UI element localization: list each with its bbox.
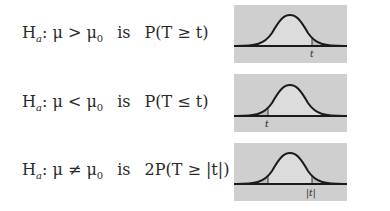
bell-curve-left-tail-icon: t	[234, 74, 347, 132]
connector-text: is	[117, 92, 130, 111]
formula-right-tail: Ha: μ > μ0isP(T ≥ t)	[22, 23, 208, 49]
svg-text:t: t	[265, 119, 269, 129]
hypothesis-symbol: H	[22, 160, 36, 179]
right-tail-diagram: t	[234, 5, 347, 63]
svg-text:t: t	[310, 49, 314, 59]
hypothesis-relation: : μ > μ	[42, 23, 97, 42]
connector-text: is	[117, 160, 130, 179]
hypothesis-relation: : μ < μ	[42, 92, 97, 111]
p-value-expression: P(T ≥ t)	[144, 23, 208, 42]
svg-text:|t|: |t|	[306, 188, 316, 199]
mu-subscript: 0	[97, 102, 103, 113]
hypothesis-symbol: H	[22, 23, 36, 42]
formula-left-tail: Ha: μ < μ0isP(T ≤ t)	[22, 92, 208, 118]
connector-text: is	[117, 23, 130, 42]
mu-subscript: 0	[97, 170, 103, 181]
hypothesis-relation: : μ ≠ μ	[42, 160, 97, 179]
hypothesis-symbol: H	[22, 92, 36, 111]
two-tail-diagram: |t|	[234, 143, 347, 201]
bell-curve-right-tail-icon: t	[234, 5, 347, 63]
formula-two-tail: Ha: μ ≠ μ0is2P(T ≥ |t|)	[22, 160, 229, 186]
bell-curve-two-tail-icon: |t|	[234, 143, 347, 201]
p-value-expression: 2P(T ≥ |t|)	[144, 160, 229, 179]
mu-subscript: 0	[97, 33, 103, 44]
p-value-expression: P(T ≤ t)	[144, 92, 208, 111]
left-tail-diagram: t	[234, 74, 347, 132]
